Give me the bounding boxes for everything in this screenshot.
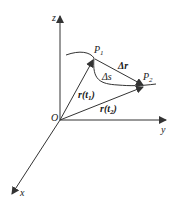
origin-label: O xyxy=(51,112,58,123)
delta-r-label: Δr xyxy=(117,60,128,71)
r-t2-label: r(t2) xyxy=(100,103,117,116)
point-p1-label: P1 xyxy=(93,44,104,57)
r-t1-label: r(t1) xyxy=(78,89,95,102)
x-axis xyxy=(12,120,60,194)
y-axis-label: y xyxy=(160,124,166,135)
point-p2-label: P2 xyxy=(142,71,153,84)
delta-s-label: Δs xyxy=(101,71,112,82)
vector-r-t1 xyxy=(60,60,93,120)
kinematics-diagram: z y x O P1 P2 Δr Δs r(t1) r(t2) xyxy=(0,0,186,212)
x-axis-label: x xyxy=(19,187,25,198)
z-axis-label: z xyxy=(51,12,56,23)
